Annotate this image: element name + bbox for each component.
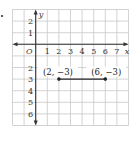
y-tick-label: 2 xyxy=(28,17,33,26)
x-tick-label: 3 xyxy=(68,47,73,56)
y-tick-label: 6 xyxy=(28,110,33,119)
x-axis-arrow-right-icon xyxy=(124,42,129,46)
x-tick-label: 6 xyxy=(103,47,108,56)
x-tick-label: 7 xyxy=(114,47,119,56)
x-tick-label: 1 xyxy=(45,47,50,56)
point-label: (2, −3) xyxy=(43,67,73,77)
y-axis-arrow-down-icon xyxy=(34,121,38,126)
data-point xyxy=(57,77,61,81)
y-tick-label: 1 xyxy=(28,29,33,38)
y-tick-label: 2 xyxy=(28,64,33,73)
data-point xyxy=(104,77,108,81)
x-tick-label: 2 xyxy=(56,47,61,56)
y-tick-label: 4 xyxy=(28,87,33,96)
x-axis-arrow-left-icon xyxy=(13,42,18,46)
x-tick-label: 5 xyxy=(91,47,96,56)
y-axis-label: y xyxy=(38,10,44,19)
coordinate-plane: 1234567xyO2123456 (2, −3)(6, −3) xyxy=(0,0,136,142)
y-tick-label: 5 xyxy=(28,98,33,107)
point-label: (6, −3) xyxy=(91,67,121,77)
x-tick-label: 4 xyxy=(80,47,85,56)
y-tick-label: 3 xyxy=(28,75,33,84)
x-axis-label: x xyxy=(125,47,130,56)
y-axis-arrow-up-icon xyxy=(34,10,38,15)
origin-label: O xyxy=(26,47,33,56)
